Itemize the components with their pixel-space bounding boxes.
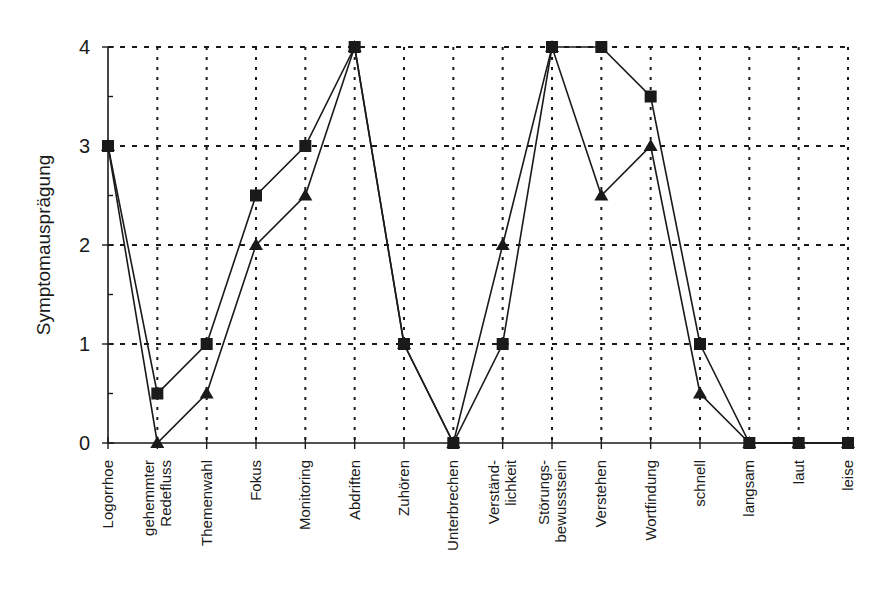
x-tick-label: Monitoring [296,460,313,530]
x-tick-label: laut [790,459,807,484]
y-tick-label: 2 [79,234,90,256]
triangle-marker [644,139,658,151]
chart-canvas: 01234 LogorrhoegehemmterRedeflussThemenw… [0,0,888,610]
x-tick-label: Fokus [247,460,264,501]
x-tick-label: leise [839,460,856,491]
x-tick-label: Themenwahl [198,460,215,546]
x-tick-label: Verständ-lichkeit [485,459,519,524]
square-marker [842,437,854,449]
y-axis-label: Symptomausprägung [33,155,54,336]
series-square [102,41,854,449]
x-axis-labels: LogorrhoegehemmterRedeflussThemenwahlFok… [99,437,856,551]
square-marker [595,41,607,53]
x-tick-label: Verstehen [592,460,609,528]
square-marker [201,338,213,350]
data-series [101,40,855,449]
triangle-marker [298,189,312,201]
x-tick-label: Wortfindung [642,460,659,541]
square-marker [497,338,509,350]
series-triangle [101,40,855,448]
x-tick-label: Unterbrechen [444,460,461,551]
square-marker [250,190,262,202]
square-marker [398,338,410,350]
y-tick-label: 4 [79,36,90,58]
line-chart: 01234 LogorrhoegehemmterRedeflussThemenw… [0,0,888,610]
x-tick-label: gehemmterRedefluss [140,460,174,536]
y-tick-label: 1 [79,333,90,355]
x-tick-label: schnell [691,460,708,507]
x-tick-label: Logorrhoe [99,460,116,528]
square-marker [546,41,558,53]
grid-lines [108,47,848,443]
square-marker [102,140,114,152]
square-marker [694,338,706,350]
x-tick-label: Abdriften [346,460,363,520]
triangle-marker [693,387,707,399]
x-tick-label: langsam [740,460,757,517]
square-marker [447,437,459,449]
x-tick-label: Zuhören [395,460,412,516]
triangle-marker [200,387,214,399]
square-marker [743,437,755,449]
y-tick-label: 3 [79,135,90,157]
square-marker [151,388,163,400]
square-marker [645,91,657,103]
y-tick-label: 0 [79,432,90,454]
square-marker [349,41,361,53]
square-marker [299,140,311,152]
square-marker [793,437,805,449]
x-tick-label: Störungs-bewusstsein [535,460,569,543]
